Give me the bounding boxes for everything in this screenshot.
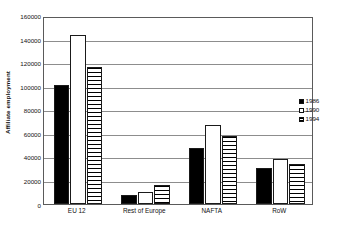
bar-group	[189, 18, 238, 204]
legend-item: 1994	[299, 115, 337, 124]
legend-item: 1990	[299, 106, 337, 115]
y-axis-tick-label: 80000	[24, 108, 41, 114]
legend-label: 1986	[306, 98, 320, 104]
bar	[70, 35, 86, 204]
bar	[54, 85, 70, 204]
legend-swatch-icon	[299, 108, 304, 113]
legend-label: 1990	[306, 107, 320, 113]
legend-swatch-icon	[299, 117, 304, 122]
plot-area	[43, 17, 313, 205]
bar-group	[121, 18, 170, 204]
bar	[121, 195, 137, 204]
bars-layer	[44, 18, 312, 204]
bar-group	[256, 18, 305, 204]
y-axis-title-label: Affiliate employment	[4, 71, 11, 134]
bar	[87, 67, 103, 204]
y-axis-tick-labels: 2000040000600008000010000012000014000016…	[12, 0, 41, 230]
y-axis-tick-label: 20000	[24, 178, 41, 184]
bar	[273, 159, 289, 204]
y-axis-tick-label: 60000	[24, 131, 41, 137]
legend-label: 1994	[306, 116, 320, 122]
y-axis-tick-label: 120000	[20, 61, 41, 67]
x-axis-tick-labels: EU 12Rest of EuropeNAFTARoW	[43, 207, 313, 221]
y-axis-tick-label: 140000	[20, 37, 41, 43]
bar	[205, 125, 221, 204]
y-axis-tick-label: 40000	[24, 155, 41, 161]
y-axis-zero-label: 0	[33, 202, 41, 209]
bar	[289, 164, 305, 204]
bar	[138, 192, 154, 204]
bar-group	[54, 18, 103, 204]
x-axis-tick-label: EU 12	[68, 207, 86, 214]
legend-swatch-icon	[299, 99, 304, 104]
bar	[256, 168, 272, 204]
x-axis-tick-label: NAFTA	[202, 207, 222, 214]
legend-item: 1986	[299, 97, 337, 106]
bar	[189, 148, 205, 204]
y-axis-tick-label: 100000	[20, 84, 41, 90]
bar	[222, 136, 238, 204]
x-axis-tick-label: Rest of Europe	[123, 207, 166, 214]
x-axis-tick-label: RoW	[272, 207, 286, 214]
y-axis-tick-label: 160000	[20, 14, 41, 20]
bar	[154, 185, 170, 204]
chart-legend: 198619901994	[299, 97, 337, 124]
bar-chart: Affiliate employment 2000040000600008000…	[0, 0, 339, 230]
